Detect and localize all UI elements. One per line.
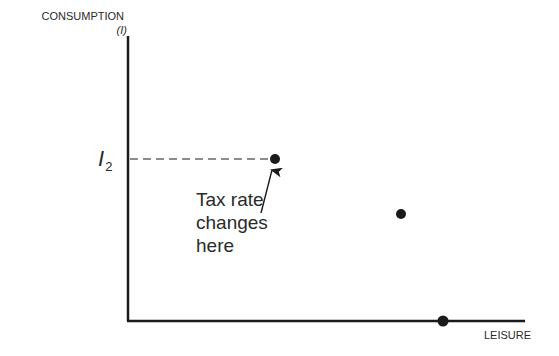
tick-subscript: 2 bbox=[105, 159, 112, 174]
data-point-1 bbox=[270, 154, 280, 164]
data-point-2 bbox=[396, 209, 406, 219]
tick-main: I bbox=[98, 146, 104, 171]
x-axis-label: LEISURE bbox=[484, 329, 531, 341]
y-axis-symbol: (I) bbox=[117, 24, 127, 36]
diagram-canvas bbox=[0, 0, 559, 356]
annotation-text: Tax rate changes here bbox=[196, 188, 276, 257]
data-point-3 bbox=[438, 316, 449, 327]
y-axis-label: CONSUMPTION bbox=[42, 10, 125, 22]
y-tick-i2: I2 bbox=[98, 146, 112, 174]
